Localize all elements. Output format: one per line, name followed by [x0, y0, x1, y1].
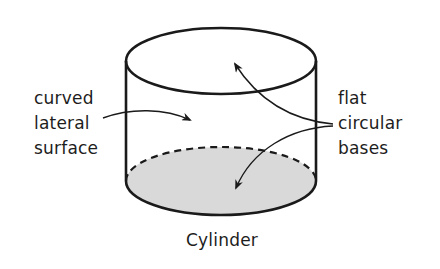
top-base	[126, 28, 316, 94]
bases-label-line-1: flat	[338, 86, 403, 111]
circular-bases-label: flat circular bases	[338, 86, 403, 161]
lateral-label-line-2: lateral	[34, 111, 98, 136]
bottom-base	[126, 147, 316, 215]
lateral-label-line-1: curved	[34, 86, 98, 111]
lateral-surface-label: curved lateral surface	[34, 86, 98, 161]
lateral-label-line-3: surface	[34, 136, 98, 161]
bases-label-line-2: circular	[338, 111, 403, 136]
top-base-arrow	[235, 64, 333, 124]
lateral-surface-arrow	[103, 111, 190, 120]
bases-label-line-3: bases	[338, 136, 403, 161]
cylinder-diagram: curved lateral surface flat circular bas…	[0, 0, 440, 269]
figure-caption: Cylinder	[0, 228, 440, 253]
